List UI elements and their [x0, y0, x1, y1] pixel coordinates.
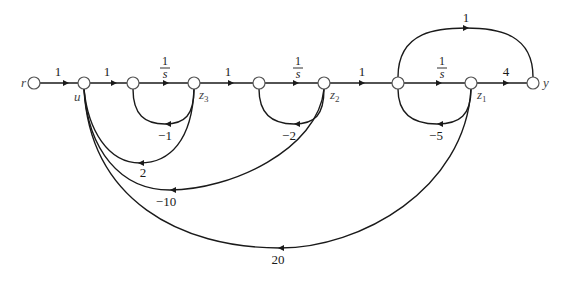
node-n2 [253, 77, 265, 89]
node-y [527, 77, 539, 89]
arrow-icon [294, 121, 300, 127]
gain-z2-n3: 1 [359, 64, 366, 79]
signal-flow-graph: r u z3 z2 z1 y 1 1 1 s 1 1 s 1 1 s 4 1 −… [0, 0, 566, 282]
gain-n1-z3: 1 s [160, 54, 170, 81]
arrow-icon [63, 80, 69, 86]
arrow-icon [170, 187, 176, 193]
arrow-icon [165, 121, 171, 127]
svg-text:s: s [440, 67, 445, 81]
arrow-icon [437, 121, 443, 127]
gain-z1-u: 20 [272, 252, 285, 267]
label-z2: z2 [329, 87, 340, 104]
arrow-icon [463, 25, 469, 31]
svg-text:1: 1 [162, 54, 168, 68]
gain-u-n1: 1 [104, 64, 111, 79]
node-u [78, 77, 90, 89]
arrow-icon [503, 80, 509, 86]
node-z1 [465, 77, 477, 89]
node-n1 [127, 77, 139, 89]
label-u: u [74, 89, 81, 104]
gain-n3-y: 1 [463, 10, 470, 25]
arrow-icon [228, 80, 234, 86]
arrow-icon [359, 80, 365, 86]
gain-z1-y: 4 [503, 64, 510, 79]
gain-z3-u: 2 [140, 165, 147, 180]
edge-z1-n3 [398, 89, 471, 124]
gain-n2-z2: 1 s [293, 54, 303, 81]
svg-text:1: 1 [295, 54, 301, 68]
gain-loop-z2: −2 [282, 128, 296, 143]
gain-r-u: 1 [55, 64, 62, 79]
svg-text:s: s [296, 67, 301, 81]
arrow-icon [278, 245, 284, 251]
label-r: r [21, 75, 27, 90]
label-z3: z3 [198, 87, 209, 104]
edge-z3-u [84, 89, 194, 163]
edge-z3-n1 [133, 89, 194, 124]
diagram-canvas: r u z3 z2 z1 y 1 1 1 s 1 1 s 1 1 s 4 1 −… [0, 0, 566, 282]
gain-z2-u: −10 [156, 194, 176, 209]
gain-z3-n2: 1 [225, 64, 232, 79]
gain-loop-z3: −1 [158, 128, 172, 143]
node-n3 [392, 77, 404, 89]
gain-n3-z1: 1 s [437, 54, 447, 81]
arrow-icon [111, 80, 117, 86]
node-z2 [318, 77, 330, 89]
label-y: y [541, 75, 549, 90]
svg-text:1: 1 [439, 54, 445, 68]
node-r [28, 77, 40, 89]
label-z1: z1 [476, 87, 487, 104]
edge-n3-y [398, 28, 533, 77]
gain-loop-z1: −5 [429, 128, 443, 143]
svg-text:s: s [163, 67, 168, 81]
